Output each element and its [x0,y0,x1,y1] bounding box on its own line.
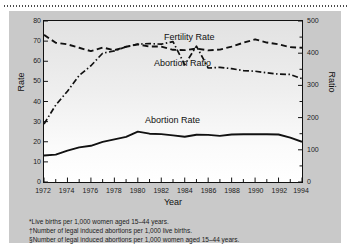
series-line-abortion-ratio [44,42,302,124]
x-tick: 1990 [248,187,264,194]
x-tick: 1980 [130,187,146,194]
left-tick: 40 [33,98,41,105]
footnote-list: *Live births per 1,000 women aged 15–44 … [29,217,341,244]
footnote-text: Number of legal induced abortions per 1,… [33,227,192,234]
figure-panel: Rate Ratio 80 70 60 50 40 30 20 10 0 500… [9,11,341,243]
right-tick: 200 [307,114,319,121]
right-axis-ticks: 500 400 300 200 100 0 [307,20,333,183]
x-tick: 1982 [153,187,169,194]
footnote-text: Number of legal induced abortions per 1,… [33,236,240,243]
left-tick: 60 [33,57,41,64]
left-tick: 30 [33,118,41,125]
series-line-abortion-rate [44,132,302,156]
right-tick: 300 [307,81,319,88]
left-axis-ticks: 80 70 60 50 40 30 20 10 0 [15,20,41,183]
right-tick: 0 [307,178,311,185]
right-tick: 100 [307,146,319,153]
x-axis-ticks: 1972 1974 1976 1978 1980 1982 1984 1986 … [43,187,303,197]
x-tick: 1972 [35,187,51,194]
x-tick: 1978 [106,187,122,194]
x-tick: 1988 [224,187,240,194]
left-tick: 0 [37,178,41,185]
x-tick: 1992 [272,187,288,194]
figure-root: Rate Ratio 80 70 60 50 40 30 20 10 0 500… [0,0,351,252]
footnote-item: †Number of legal induced abortions per 1… [29,226,341,235]
left-tick: 10 [33,158,41,165]
x-tick: 1976 [83,187,99,194]
x-tick: 1994 [293,187,309,194]
right-tick: 500 [307,17,319,24]
series-label-abortion-rate: Abortion Rate [145,115,200,125]
left-tick: 50 [33,77,41,84]
x-axis-title: Year [43,197,303,207]
plot-canvas [44,21,302,182]
plot-area: Fertility Rate Abortion Ratio Abortion R… [43,20,303,183]
footnote-item: *Live births per 1,000 women aged 15–44 … [29,217,341,226]
x-tick: 1984 [177,187,193,194]
x-tick: 1986 [201,187,217,194]
top-dotted-rule [4,5,347,7]
footnote-item: §Number of legal induced abortions per 1… [29,235,341,244]
footnote-text: Live births per 1,000 women aged 15–44 y… [32,218,169,225]
left-tick: 80 [33,17,41,24]
series-label-abortion-ratio: Abortion Ratio [154,58,211,68]
left-tick: 20 [33,138,41,145]
x-tick: 1974 [59,187,75,194]
series-label-fertility: Fertility Rate [164,32,215,42]
left-tick: 70 [33,37,41,44]
right-tick: 400 [307,49,319,56]
